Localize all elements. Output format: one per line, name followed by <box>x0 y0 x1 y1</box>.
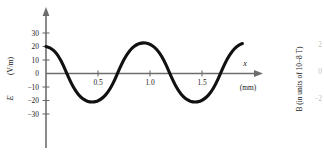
e-field-curve <box>46 43 242 102</box>
y-axis-unit: (V/m) <box>6 56 15 75</box>
y-tick-label-10: 10 <box>32 56 40 65</box>
y-axis-arrow-icon <box>43 7 50 16</box>
y-tick-label-m10: −10 <box>27 83 39 92</box>
y-tick-label-m30: −30 <box>27 110 39 119</box>
y-tick-label-0: 0 <box>35 69 39 78</box>
x-tick-label-1-5: 1.5 <box>197 78 207 87</box>
x-axis-arrow-icon <box>254 70 263 77</box>
left-plot: 30 20 10 0 −10 −20 −30 0.5 1.0 1.5 x (mm… <box>6 7 263 148</box>
right-y-tick-label-0: 0 <box>318 67 322 76</box>
right-y-tick-label-m2: −2 <box>314 94 322 103</box>
right-y-axis-label-group: B (in units of 10−8 T) <box>295 46 304 112</box>
y-tick-label-30: 30 <box>32 29 40 38</box>
y-tick-label-m20: −20 <box>27 96 39 105</box>
right-plot: B (in units of 10−8 T) 2 0 −2 <box>295 40 322 112</box>
x-tick-label-0-5: 0.5 <box>93 78 103 87</box>
x-axis-unit: (mm) <box>240 83 257 92</box>
right-y-tick-label-2: 2 <box>318 40 322 49</box>
y-axis-label-group: E (V/m) <box>6 56 15 101</box>
right-y-axis-label: B (in units of 10−8 T) <box>295 46 304 112</box>
y-axis <box>43 7 50 148</box>
figure-canvas: 30 20 10 0 −10 −20 −30 0.5 1.0 1.5 x (mm… <box>0 0 324 153</box>
x-axis <box>46 70 263 77</box>
y-axis-label: E <box>6 95 15 101</box>
y-tick-label-20: 20 <box>32 42 40 51</box>
x-tick-label-1-0: 1.0 <box>145 78 155 87</box>
x-axis-label: x <box>242 59 247 68</box>
